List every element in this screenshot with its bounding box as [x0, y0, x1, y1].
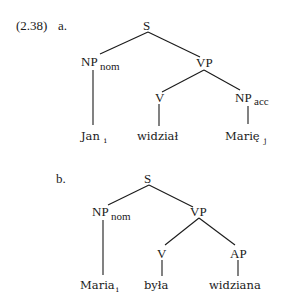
node-s: S — [144, 171, 151, 186]
leaf-maria-index: i — [116, 285, 119, 294]
tree-a-label: a. — [58, 18, 67, 33]
tree-b-label: b. — [56, 171, 66, 186]
leaf-marie: Marię — [225, 129, 260, 143]
edge-s-np — [108, 185, 149, 205]
leaf-jan-index: i — [104, 136, 107, 145]
node-s: S — [143, 18, 150, 33]
leaf-widziana: widziana — [209, 278, 261, 292]
edge-vp-v — [165, 218, 199, 245]
tree-b: b. S NP nom VP V AP Maria i była widzian… — [56, 171, 261, 294]
edge-s-vp — [148, 32, 200, 57]
node-np-nom: NP — [81, 54, 98, 69]
leaf-jan: Jan — [80, 129, 100, 143]
edge-vp-v — [162, 70, 204, 92]
node-np-nom-sub: nom — [100, 60, 120, 72]
edge-s-vp — [149, 185, 193, 207]
leaf-byla: była — [144, 278, 169, 292]
tree-a: (2.38) a. S NP nom VP V NP acc Jan i wid… — [16, 18, 269, 145]
syntax-tree-diagram: (2.38) a. S NP nom VP V NP acc Jan i wid… — [0, 0, 285, 305]
node-np-acc: NP — [235, 90, 252, 105]
node-np-nom: NP — [92, 204, 109, 219]
leaf-maria: Maria — [80, 278, 115, 292]
node-np-nom-sub: nom — [111, 210, 131, 222]
node-v: V — [157, 246, 167, 261]
leaf-widzial: widział — [137, 129, 178, 143]
node-np-acc-sub: acc — [254, 95, 269, 107]
edge-s-np — [100, 32, 148, 54]
node-vp: VP — [196, 55, 213, 70]
node-vp: VP — [190, 204, 207, 219]
edge-vp-np — [204, 70, 240, 90]
edge-vp-ap — [199, 218, 235, 245]
leaf-marie-index: j — [263, 136, 266, 145]
node-ap: AP — [230, 246, 247, 261]
example-number: (2.38) — [16, 18, 47, 33]
node-v: V — [155, 90, 165, 105]
